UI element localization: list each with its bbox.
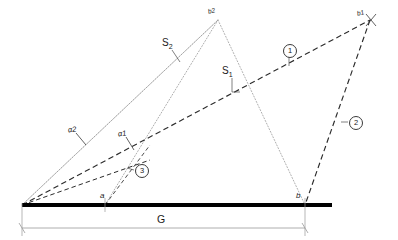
line-origin-to-b1 xyxy=(22,20,370,205)
line-origin-to-a-dashed xyxy=(22,160,150,205)
label-alpha2: α2 xyxy=(68,125,77,134)
label-s2: S2 xyxy=(162,38,173,50)
leader-lines xyxy=(127,50,348,170)
thin-solid-rays xyxy=(22,20,218,205)
marker-1-badge: 1 xyxy=(283,44,297,58)
label-point-b: b xyxy=(296,192,300,200)
dashed-triangle-b1 xyxy=(22,20,370,205)
tick-alpha1 xyxy=(126,137,134,150)
leader-marker-3 xyxy=(127,168,134,170)
leader-s2 xyxy=(172,50,180,62)
label-s1: S1 xyxy=(222,66,233,78)
line-origin-upper-ray xyxy=(22,20,218,205)
tick-alpha2 xyxy=(76,133,86,145)
marker-2-badge: 2 xyxy=(349,116,363,130)
label-baseline-g: G xyxy=(157,214,165,225)
marker-3-badge: 3 xyxy=(135,164,149,178)
line-b1-to-b xyxy=(305,20,370,205)
diagram-vector-layer xyxy=(0,0,398,240)
label-point-a: a xyxy=(100,192,104,200)
label-alpha1: α1 xyxy=(118,129,127,138)
diagram-canvas: S2 S1 α2 α1 b2 b1 a b G 1 2 3 xyxy=(0,0,398,240)
